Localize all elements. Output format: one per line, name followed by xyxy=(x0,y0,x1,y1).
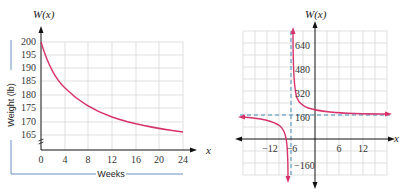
y-tick: 185 xyxy=(21,75,36,86)
x-tick: 8 xyxy=(86,154,91,165)
x-tick: −6 xyxy=(287,143,298,154)
x-tick: 20 xyxy=(154,154,164,165)
y-tick: 170 xyxy=(21,116,36,127)
figure: 200 195 190 185 180 175 170 165 0 4 8 12… xyxy=(0,0,401,194)
y-tick: 195 xyxy=(21,49,36,60)
y-tick: 160 xyxy=(295,112,310,123)
x-tick: 24 xyxy=(178,154,188,165)
x-tick: 12 xyxy=(107,154,117,165)
right-x-variable: x xyxy=(393,132,399,144)
y-tick: 190 xyxy=(21,62,36,73)
x-tick: 12 xyxy=(358,143,368,154)
right-chart-title: W(x) xyxy=(305,8,327,21)
y-tick: 175 xyxy=(21,102,36,113)
x-tick: 0 xyxy=(39,154,44,165)
left-chart-title: W(x) xyxy=(33,8,55,21)
left-y-label: Weight (lb) xyxy=(6,83,16,126)
right-y-down-arrow-icon xyxy=(313,182,318,189)
x-tick: 6 xyxy=(337,143,342,154)
left-chart: 200 195 190 185 180 175 170 165 0 4 8 12… xyxy=(5,8,211,179)
right-y-up-arrow-icon xyxy=(313,21,318,28)
x-tick: −12 xyxy=(262,143,278,154)
left-y-arrow-icon xyxy=(39,26,44,33)
curve-up-arrow-icon xyxy=(291,27,296,34)
y-tick: −160 xyxy=(294,160,315,171)
left-x-label: Weeks xyxy=(97,169,125,179)
x-tick: 4 xyxy=(63,154,68,165)
y-tick: 200 xyxy=(21,36,36,47)
left-x-ticks: 0 4 8 12 16 20 24 xyxy=(39,154,189,165)
y-tick: 640 xyxy=(295,40,310,51)
left-x-variable: x xyxy=(205,144,211,156)
left-grid xyxy=(41,42,183,150)
right-x-left-arrow-icon xyxy=(235,137,242,142)
curve-down-arrow-icon xyxy=(286,176,291,183)
left-y-ticks: 200 195 190 185 180 175 170 165 xyxy=(21,36,36,140)
y-tick: 180 xyxy=(21,89,36,100)
y-tick: 320 xyxy=(295,88,310,99)
x-tick: 16 xyxy=(131,154,141,165)
y-tick: 165 xyxy=(21,129,36,140)
curve-right-arrow-icon xyxy=(385,112,392,117)
right-chart: 640 480 320 160 −160 −12 −6 6 12 W(x) x xyxy=(235,8,399,189)
y-tick: 480 xyxy=(295,64,310,75)
left-x-arrow-icon xyxy=(190,148,197,153)
